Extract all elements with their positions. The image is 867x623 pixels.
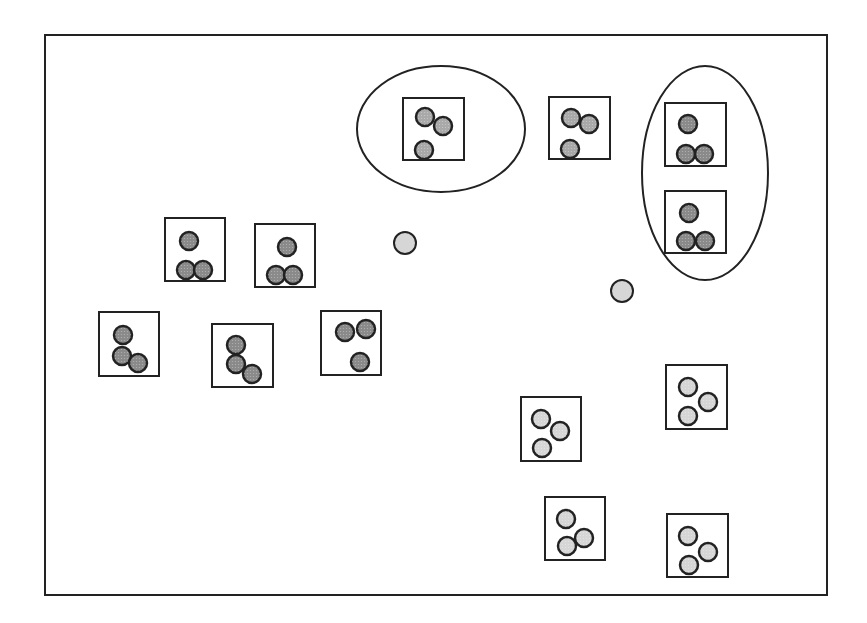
particle-texture — [559, 538, 575, 554]
particle-texture — [417, 109, 433, 125]
particle-texture — [279, 239, 295, 255]
cluster-box — [521, 397, 581, 461]
particle-texture — [697, 233, 713, 249]
cluster-box — [321, 311, 381, 375]
cluster-box — [165, 218, 225, 281]
particle-texture — [114, 348, 130, 364]
particle-texture — [533, 411, 549, 427]
particle-texture — [696, 146, 712, 162]
particle-texture — [228, 337, 244, 353]
particle-texture — [700, 544, 716, 560]
cluster-box — [667, 514, 728, 577]
diagram-canvas — [0, 0, 867, 623]
cluster-box — [665, 103, 726, 166]
particle-texture — [337, 324, 353, 340]
loose-particle-circle — [394, 232, 416, 254]
particle-texture — [352, 354, 368, 370]
particle-texture — [680, 408, 696, 424]
particle-texture — [358, 321, 374, 337]
cluster-box — [255, 224, 315, 287]
cluster-box — [403, 98, 464, 160]
particle-texture — [678, 233, 694, 249]
particle-texture — [195, 262, 211, 278]
particle-texture — [285, 267, 301, 283]
loose-particle-circle — [611, 280, 633, 302]
cluster-box — [666, 365, 727, 429]
particle-texture — [178, 262, 194, 278]
particle-texture — [115, 327, 131, 343]
particle-texture — [435, 118, 451, 134]
cluster-box — [665, 191, 726, 253]
particle-texture — [678, 146, 694, 162]
cluster-box — [545, 497, 605, 560]
particle-texture — [268, 267, 284, 283]
particle-texture — [534, 440, 550, 456]
particle-texture — [576, 530, 592, 546]
particle-texture — [680, 379, 696, 395]
particle-texture — [681, 557, 697, 573]
particle-texture — [228, 356, 244, 372]
cluster-box — [212, 324, 273, 387]
cluster-box — [99, 312, 159, 376]
particle-texture — [558, 511, 574, 527]
particle-texture — [416, 142, 432, 158]
particle-texture — [681, 205, 697, 221]
particle-texture — [563, 110, 579, 126]
particle-texture — [130, 355, 146, 371]
particle-texture — [680, 528, 696, 544]
particle-texture — [680, 116, 696, 132]
particle-texture — [552, 423, 568, 439]
particle-texture — [562, 141, 578, 157]
particle-texture — [581, 116, 597, 132]
cluster-box — [549, 97, 610, 159]
particle-texture — [181, 233, 197, 249]
particle-texture — [700, 394, 716, 410]
particle-texture — [244, 366, 260, 382]
